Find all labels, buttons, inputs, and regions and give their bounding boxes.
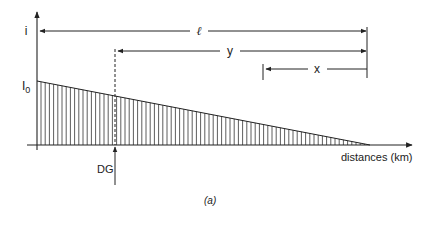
x-axis-label: distances (km) [341, 151, 413, 163]
y-axis-label: i [25, 24, 28, 38]
current-distribution-diagram: ℓ y x i I0 distances (km) DG (a) [0, 0, 433, 226]
dim-x-label: x [314, 62, 320, 76]
initial-current-label: I0 [22, 79, 30, 95]
dim-y-label: y [227, 44, 233, 58]
figure-caption: (a) [204, 195, 216, 206]
generator-label: DG [97, 163, 114, 175]
dim-l-label: ℓ [197, 24, 202, 38]
